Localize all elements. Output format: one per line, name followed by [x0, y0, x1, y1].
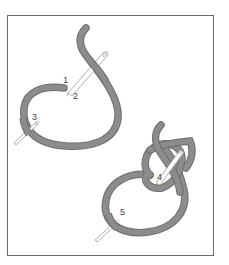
step-label-5: 5	[120, 208, 125, 217]
step-label-1: 1	[63, 76, 68, 85]
lower-thread-knot	[105, 125, 192, 233]
step-label-4: 4	[157, 173, 162, 182]
step-label-2: 2	[73, 92, 78, 101]
stitch-diagram	[0, 0, 229, 265]
step-label-3: 3	[32, 113, 37, 122]
upper-thread	[24, 28, 118, 146]
